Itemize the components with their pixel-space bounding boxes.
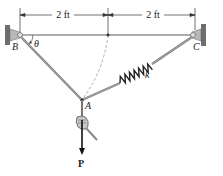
angle-label-theta: θ [34,38,39,49]
mechanics-diagram: 2 ft 2 ft θ B C k A [0,0,223,176]
dimension-label-left: 2 ft [56,9,70,20]
point-label-c: C [193,41,200,52]
spring-label-k: k [145,69,150,80]
point-label-a: A [84,100,92,111]
force-label-p: P [78,158,84,169]
dimension-label-right: 2 ft [146,9,160,20]
hand-icon [76,116,97,140]
point-label-b: B [12,41,18,52]
dimension-lines [20,8,195,34]
